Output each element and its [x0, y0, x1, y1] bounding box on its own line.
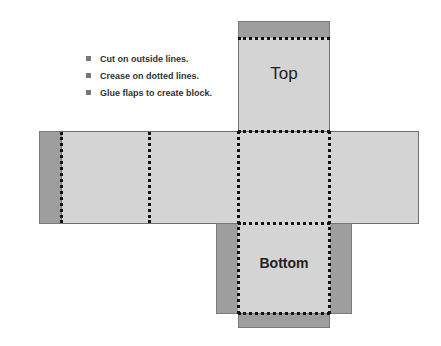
fold-line [238, 130, 330, 133]
bullet-icon [86, 73, 91, 78]
top-face: Top [238, 38, 330, 132]
bottom-flap [238, 313, 330, 328]
bottom-left-flap [216, 223, 239, 314]
top-face-label: Top [239, 64, 329, 84]
instruction-item: Cut on outside lines. [86, 54, 220, 65]
bottom-face: Bottom [238, 223, 330, 314]
fold-line [238, 37, 330, 40]
bullet-icon [86, 90, 91, 95]
fold-line [148, 132, 151, 223]
side-band [39, 131, 419, 224]
instructions-list: Cut on outside lines. Crease on dotted l… [86, 54, 220, 105]
bottom-right-flap [329, 223, 352, 314]
left-flap [39, 131, 62, 224]
fold-line [238, 222, 330, 225]
instruction-item: Crease on dotted lines. [86, 71, 220, 82]
instruction-item: Glue flaps to create block. [86, 88, 220, 99]
bottom-face-label: Bottom [238, 255, 330, 271]
bullet-icon [86, 56, 91, 61]
fold-line [60, 132, 63, 223]
fold-line [238, 312, 330, 315]
